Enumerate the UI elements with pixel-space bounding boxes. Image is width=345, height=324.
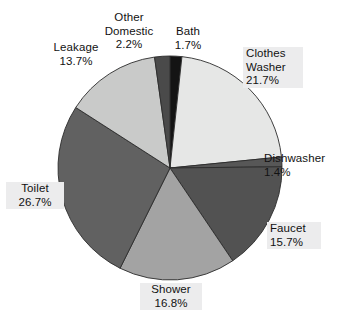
slice-label-clothes-washer-line2: Washer	[243, 61, 303, 75]
slice-label-dishwasher: Dishwasher 1.4%	[261, 152, 343, 179]
slice-label-bath-line1: Bath	[166, 25, 210, 39]
slice-label-bath: Bath 1.7%	[166, 25, 210, 52]
slice-value-toilet: 26.7%	[6, 196, 64, 210]
slice-value-leakage: 13.7%	[40, 55, 112, 69]
slice-label-toilet-line1: Toilet	[6, 182, 64, 196]
slice-label-other-domestic-line2: Domestic	[96, 25, 162, 39]
pie-chart-figure: Other Domestic 2.2% Bath 1.7% Leakage 13…	[0, 0, 345, 324]
slice-label-shower: Shower 16.8%	[140, 283, 202, 310]
slice-label-clothes-washer: Clothes Washer 21.7%	[243, 47, 303, 88]
slice-value-shower: 16.8%	[140, 297, 202, 311]
slice-label-faucet: Faucet 15.7%	[267, 222, 321, 249]
slice-value-clothes-washer: 21.7%	[243, 74, 303, 88]
slice-label-clothes-washer-line1: Clothes	[243, 47, 303, 61]
slice-label-toilet: Toilet 26.7%	[6, 182, 64, 209]
slice-label-leakage: Leakage 13.7%	[40, 41, 112, 68]
slice-label-dishwasher-line1: Dishwasher	[261, 152, 343, 166]
slice-value-bath: 1.7%	[166, 39, 210, 53]
slice-label-leakage-line1: Leakage	[40, 41, 112, 55]
slice-label-shower-line1: Shower	[140, 283, 202, 297]
slice-value-faucet: 15.7%	[267, 236, 321, 250]
pie-slice-group	[58, 56, 282, 280]
slice-label-faucet-line1: Faucet	[267, 222, 321, 236]
slice-value-dishwasher: 1.4%	[261, 166, 343, 180]
slice-label-other-domestic-line1: Other	[96, 11, 162, 25]
